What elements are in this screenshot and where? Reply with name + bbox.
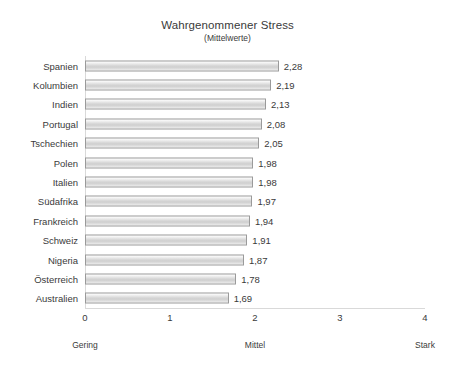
bar-value-label: 1,91	[252, 235, 271, 246]
bar	[85, 80, 271, 91]
bar-value-label: 2,28	[284, 60, 303, 71]
bar-row: Frankreich1,94	[85, 211, 425, 230]
bar-row: Schweiz1,91	[85, 230, 425, 249]
chart-title-block: Wahrgenommener Stress (Mittelwerte)	[0, 18, 455, 44]
scale-anchor-label: Gering	[45, 340, 125, 350]
category-label: Österreich	[34, 273, 78, 284]
bar-value-label: 1,98	[258, 176, 277, 187]
category-label: Portugal	[43, 118, 78, 129]
bar-row: Indien2,13	[85, 95, 425, 114]
chart-container: Wahrgenommener Stress (Mittelwerte) Span…	[0, 0, 455, 375]
bar-row: Spanien2,28	[85, 56, 425, 75]
bar-value-label: 1,97	[257, 196, 276, 207]
bar-value-label: 2,05	[264, 138, 283, 149]
bar-value-label: 1,94	[255, 215, 274, 226]
category-label: Australien	[36, 293, 78, 304]
bar-row: Portugal2,08	[85, 114, 425, 133]
bar-row: Nigeria1,87	[85, 250, 425, 269]
category-label: Frankreich	[33, 215, 78, 226]
category-label: Südafrika	[38, 196, 78, 207]
bar	[85, 60, 279, 71]
bar-value-label: 2,13	[271, 99, 290, 110]
scale-anchor-label: Stark	[385, 340, 455, 350]
category-label: Schweiz	[43, 235, 78, 246]
bar-row: Polen1,98	[85, 153, 425, 172]
category-label: Nigeria	[48, 254, 78, 265]
x-axis-tick-label: 4	[405, 312, 445, 323]
x-axis-tick-label: 1	[150, 312, 190, 323]
bar-row: Südafrika1,97	[85, 192, 425, 211]
bar	[85, 273, 236, 284]
bar-value-label: 1,78	[241, 273, 260, 284]
bar	[85, 176, 253, 187]
category-label: Kolumbien	[33, 80, 78, 91]
bar-row: Österreich1,78	[85, 269, 425, 288]
x-axis-tick-label: 3	[320, 312, 360, 323]
chart-subtitle: (Mittelwerte)	[0, 32, 455, 44]
category-label: Spanien	[43, 60, 78, 71]
bar-value-label: 1,69	[234, 293, 253, 304]
category-label: Italien	[53, 176, 78, 187]
bar-row: Kolumbien2,19	[85, 75, 425, 94]
x-axis-line	[85, 308, 425, 309]
x-axis-tick-label: 0	[65, 312, 105, 323]
bar	[85, 215, 250, 226]
bar-value-label: 1,98	[258, 157, 277, 168]
bar-row: Italien1,98	[85, 172, 425, 191]
bar-row: Tschechien2,05	[85, 134, 425, 153]
bar	[85, 138, 259, 149]
category-label: Indien	[52, 99, 78, 110]
bar	[85, 99, 266, 110]
bar	[85, 254, 244, 265]
bar	[85, 235, 247, 246]
scale-anchor-label: Mittel	[215, 340, 295, 350]
category-label: Polen	[54, 157, 78, 168]
x-axis-tick-label: 2	[235, 312, 275, 323]
bar-value-label: 1,87	[249, 254, 268, 265]
plot-area: Spanien2,28Kolumbien2,19Indien2,13Portug…	[85, 56, 425, 308]
bar	[85, 196, 252, 207]
bar-value-label: 2,19	[276, 80, 295, 91]
bar	[85, 118, 262, 129]
bar-row: Australien1,69	[85, 289, 425, 308]
bar	[85, 157, 253, 168]
bar-value-label: 2,08	[267, 118, 286, 129]
bar	[85, 293, 229, 304]
chart-title: Wahrgenommener Stress	[0, 18, 455, 32]
category-label: Tschechien	[30, 138, 78, 149]
